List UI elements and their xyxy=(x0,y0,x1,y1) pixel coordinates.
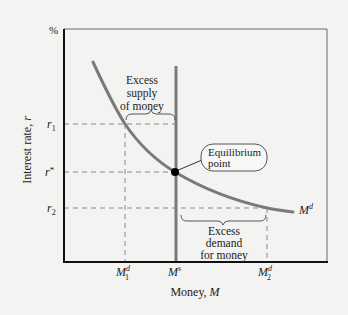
demand-curve-label: Md xyxy=(298,202,314,217)
svg-text:demand: demand xyxy=(206,237,243,249)
y-tick-rstar: r* xyxy=(45,165,55,179)
svg-text:point: point xyxy=(208,157,231,169)
svg-text:Excess: Excess xyxy=(208,225,240,237)
y-tick-r2: r2 xyxy=(47,201,56,217)
x-tick-m1d: Md1 xyxy=(115,264,131,282)
money-market-diagram: % Interest rate, r r1 r* r2 Md1 Ms Md2 M… xyxy=(0,0,348,315)
plot-frame xyxy=(64,29,327,262)
diagram-canvas: % Interest rate, r r1 r* r2 Md1 Ms Md2 M… xyxy=(0,0,348,315)
svg-text:for money: for money xyxy=(200,249,248,262)
equilibrium-point xyxy=(171,168,179,176)
equilibrium-leader-line xyxy=(176,160,202,171)
x-tick-m2d: Md2 xyxy=(257,264,273,282)
money-demand-curve xyxy=(93,62,293,212)
excess-demand-brace xyxy=(181,215,266,225)
y-unit-label: % xyxy=(49,24,58,36)
svg-text:Excess: Excess xyxy=(126,74,158,86)
x-tick-ms: Ms xyxy=(167,264,181,279)
y-tick-r1: r1 xyxy=(47,117,56,133)
excess-supply-annotation: Excess supply of money xyxy=(120,74,164,113)
y-axis-title: Interest rate, r xyxy=(20,116,34,184)
excess-demand-annotation: Excess demand for money xyxy=(200,225,248,262)
x-axis-title: Money, M xyxy=(170,285,220,299)
svg-text:supply: supply xyxy=(127,87,158,100)
svg-text:of money: of money xyxy=(120,100,164,113)
